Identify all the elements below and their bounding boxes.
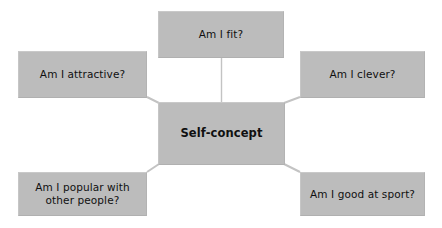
node-am-i-clever[interactable]: Am I clever? — [300, 51, 425, 98]
node-am-i-fit[interactable]: Am I fit? — [158, 11, 284, 58]
node-am-i-good-at-sport[interactable]: Am I good at sport? — [300, 172, 425, 216]
connector-clever-to-center — [284, 97, 300, 103]
node-am-i-attractive[interactable]: Am I attractive? — [18, 51, 147, 98]
node-label: Am I fit? — [195, 28, 247, 41]
connector-popular-to-center — [147, 164, 159, 172]
node-am-i-popular[interactable]: Am I popular with other people? — [18, 172, 147, 216]
node-label: Self-concept — [176, 127, 266, 140]
node-label: Am I good at sport? — [306, 188, 419, 201]
node-label: Am I attractive? — [36, 68, 129, 81]
node-label: Am I clever? — [325, 68, 399, 81]
connector-sport-to-center — [284, 164, 300, 172]
self-concept-diagram: Am I fit? Am I attractive? Am I clever? … — [0, 0, 442, 228]
node-label: Am I popular with other people? — [31, 181, 134, 207]
node-self-concept[interactable]: Self-concept — [158, 102, 285, 165]
